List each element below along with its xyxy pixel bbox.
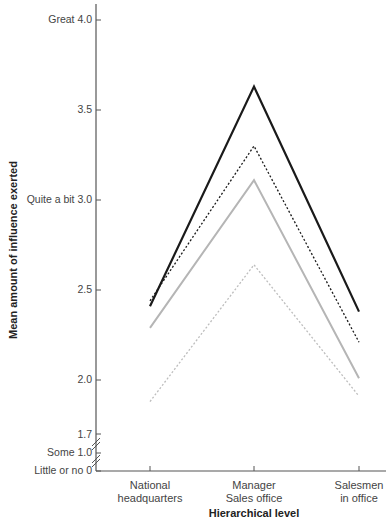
y-tick-label-0: Little or no 0 [34, 464, 92, 476]
y-axis-title: Mean amount of influence exerted [7, 161, 19, 339]
series-line-3 [150, 180, 359, 378]
y-tick-label-2.5: 2.5 [77, 283, 92, 295]
plot-area [0, 0, 386, 520]
y-tick-label-3.0: Quite a bit 3.0 [27, 193, 92, 205]
line-chart: Great 4.0 3.5 Quite a bit 3.0 2.5 2.0 1.… [0, 0, 386, 520]
category-line-1: Salesmen [335, 479, 384, 492]
category-line-2: Sales office [226, 492, 283, 505]
y-tick-label-2.0: 2.0 [77, 373, 92, 385]
x-axis-title: Hierarchical level [209, 507, 300, 519]
y-tick-label-4.0: Great 4.0 [48, 13, 92, 25]
y-ticks [96, 20, 101, 471]
series-line-4 [150, 265, 359, 402]
x-category-salesmen-in-office: Salesmen in office [335, 479, 384, 505]
y-tick-label-3.5: 3.5 [77, 103, 92, 115]
category-line-2: headquarters [118, 492, 183, 505]
category-line-1: National [118, 479, 183, 492]
category-line-2: in office [335, 492, 384, 505]
series-line-1 [150, 87, 359, 312]
y-tick-label-1.7: 1.7 [77, 428, 92, 440]
category-line-1: Manager [226, 479, 283, 492]
x-category-national-headquarters: National headquarters [118, 479, 183, 505]
data-series [150, 87, 359, 402]
y-tick-label-1.0: Some 1.0 [47, 446, 92, 458]
x-category-manager-sales-office: Manager Sales office [226, 479, 283, 505]
x-ticks [150, 466, 359, 471]
